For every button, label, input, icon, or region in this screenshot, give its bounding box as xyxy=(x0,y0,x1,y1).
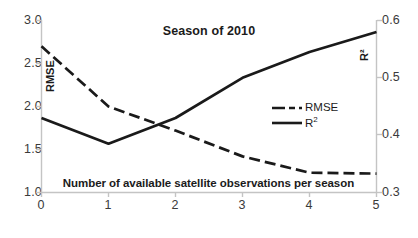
chart-container: Season of 2010 RMSE R² Number of availab… xyxy=(0,0,418,238)
series-line-r2 xyxy=(42,32,377,144)
chart-plot-area xyxy=(0,0,418,238)
series-line-rmse xyxy=(42,46,377,173)
